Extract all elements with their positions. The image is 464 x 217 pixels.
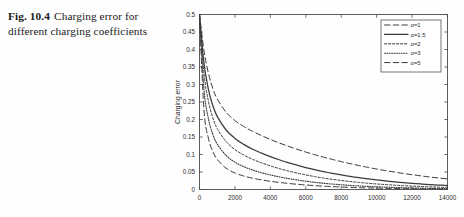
y-tick-label: 0.4 — [186, 46, 195, 53]
figure-page: Fig. 10.4Charging error for different ch… — [0, 0, 464, 217]
chart-figure: 02000400060008000100001200014000 00.050.… — [168, 6, 458, 214]
y-tick-label: 0.15 — [183, 133, 196, 140]
y-tick-label: 0.25 — [183, 98, 196, 105]
y-tick-label: 0.2 — [186, 116, 195, 123]
y-tick-label: 0.35 — [183, 63, 196, 70]
legend-label: α=2 — [411, 41, 421, 47]
x-tick-label: 0 — [198, 194, 202, 201]
x-tick-label: 6000 — [299, 194, 314, 201]
x-tick-label: 10000 — [368, 194, 386, 201]
y-axis-title: Charging error — [174, 79, 182, 124]
figure-caption: Fig. 10.4Charging error for different ch… — [8, 9, 170, 38]
x-tick-label: 14000 — [439, 194, 457, 201]
figure-number: Fig. 10.4 — [8, 10, 50, 22]
legend-label: α=1.5 — [411, 32, 427, 38]
y-tick-label: 0.5 — [186, 11, 195, 18]
y-tick-label: 0.45 — [183, 28, 196, 35]
legend-label: α=3 — [411, 50, 422, 56]
x-tick-label: 8000 — [334, 194, 349, 201]
y-axis-title-group: Charging error — [174, 79, 182, 124]
y-tick-label: 0.1 — [186, 151, 195, 158]
charging-error-line-chart: 02000400060008000100001200014000 00.050.… — [168, 6, 458, 214]
x-tick-label: 4000 — [263, 194, 278, 201]
y-tick-label: 0.05 — [183, 168, 196, 175]
chart-legend: α=1α=1.5α=2α=3α=5 — [381, 20, 441, 72]
y-tick-label: 0.3 — [186, 81, 195, 88]
legend-label: α=1 — [411, 22, 421, 28]
legend-label: α=5 — [411, 60, 422, 66]
x-tick-label: 2000 — [228, 194, 243, 201]
x-tick-label: 12000 — [403, 194, 421, 201]
y-tick-label: 0 — [191, 186, 195, 193]
